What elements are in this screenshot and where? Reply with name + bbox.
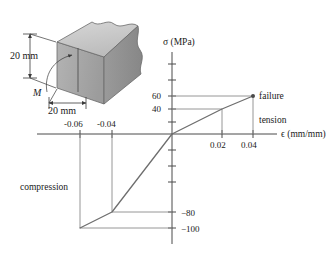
- block-illustration: [57, 22, 142, 104]
- failure-annotation: failure: [259, 91, 284, 101]
- stress-strain-figure: 20 mm 20 mm M σ (MPa) ϵ (mm/mm): [0, 0, 328, 269]
- moment-label: M: [32, 87, 42, 98]
- y-tick-label-60: 60: [152, 91, 162, 101]
- height-ext-top: [30, 34, 56, 42]
- y-tick-label-neg100: −100: [181, 224, 200, 234]
- guide-lines: [80, 96, 253, 228]
- compression-annotation: compression: [20, 182, 68, 192]
- x-tick-label-002: 0.02: [210, 140, 226, 150]
- stress-strain-curve-group: [80, 94, 255, 228]
- failure-point-marker: [251, 94, 255, 98]
- y-tick-label-40: 40: [152, 104, 162, 114]
- y-tick-label-neg80: −80: [181, 208, 196, 218]
- y-axis-label: σ (MPa): [163, 37, 195, 48]
- figure-canvas: 20 mm 20 mm M σ (MPa) ϵ (mm/mm): [0, 0, 328, 269]
- width-ext-left: [49, 89, 57, 103]
- tension-annotation: tension: [259, 115, 287, 125]
- x-tick-label-neg006: -0.06: [64, 119, 83, 129]
- width-dimension-label: 20 mm: [48, 105, 76, 116]
- x-tick-label-004: 0.04: [241, 140, 257, 150]
- x-tick-label-neg004: -0.04: [97, 119, 116, 129]
- x-axis-label: ϵ (mm/mm): [281, 129, 326, 140]
- stress-strain-curve: [80, 96, 253, 228]
- height-dimension-label: 20 mm: [10, 50, 38, 61]
